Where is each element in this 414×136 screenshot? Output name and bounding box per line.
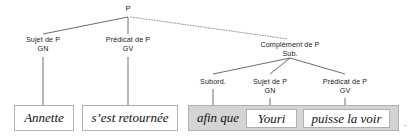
syntax-tree-diagram: P Sujet de P GN Prédicat de P GV Complém… xyxy=(0,0,414,136)
node-complement-de-p-line1: Complément de P xyxy=(260,40,319,49)
edge-root-to-complement-dotted xyxy=(131,17,288,39)
node-complement-de-p: Complément de P Sub. xyxy=(260,41,319,58)
node-sujet-de-p-line1: Sujet de P xyxy=(26,35,60,44)
group-text-afin-que: afin que xyxy=(192,105,244,131)
edge-root-to-sujet xyxy=(43,17,128,34)
edge-complement-to-sujet-sub xyxy=(270,58,290,74)
node-subord: Subord. xyxy=(200,78,226,87)
edge-complement-to-subord xyxy=(213,58,290,74)
node-sujet-de-p-sub-line2: GN xyxy=(253,87,287,96)
node-predicat-de-p-sub-line2: GV xyxy=(323,87,367,96)
node-sujet-de-p: Sujet de P GN xyxy=(26,36,60,53)
leaf-box-annette: Annette xyxy=(14,105,74,131)
node-sujet-de-p-line2: GN xyxy=(26,45,60,54)
leaf-box-youri: Youri xyxy=(246,109,297,128)
node-subord-line1: Subord. xyxy=(200,77,226,86)
end-punctuation-mark: . xyxy=(404,118,406,128)
node-predicat-de-p-line1: Prédicat de P xyxy=(106,35,150,44)
node-sujet-de-p-sub-line1: Sujet de P xyxy=(253,77,287,86)
node-predicat-de-p-sub: Prédicat de P GV xyxy=(323,78,367,95)
node-root-p: P xyxy=(125,4,130,13)
node-complement-de-p-line2: Sub. xyxy=(260,50,319,59)
node-predicat-de-p-sub-line1: Prédicat de P xyxy=(323,77,367,86)
node-predicat-de-p: Prédicat de P GV xyxy=(106,36,150,53)
leaf-box-puisse-la-voir: puisse la voir xyxy=(303,109,390,128)
node-sujet-de-p-sub: Sujet de P GN xyxy=(253,78,287,95)
edge-complement-to-predicat-sub xyxy=(290,58,345,74)
leaf-box-sest-retournee: s’est retournée xyxy=(82,105,178,131)
node-predicat-de-p-line2: GV xyxy=(106,45,150,54)
